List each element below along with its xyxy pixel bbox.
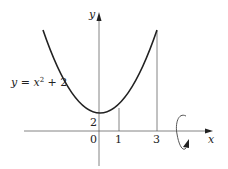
diagram-canvas: y x 0 1 3 2 y = x2 + 2 [0,0,228,169]
rotation-arrow-icon [176,115,189,149]
y-axis-label: y [88,8,96,21]
tick-label-1: 1 [115,133,122,146]
equation-rhs: + 2 [44,76,67,89]
tick-label-3: 3 [153,133,160,146]
x-axis-label: x [208,133,215,146]
diagram-svg: y x 0 1 3 2 y = x2 + 2 [0,0,228,169]
parabola-curve [43,30,157,113]
equation-lhs: y = x [10,76,40,89]
y-intercept-label: 2 [90,116,97,129]
y-axis-arrow-icon [97,12,102,21]
origin-label: 0 [90,133,97,146]
equation-label: y = x2 + 2 [10,76,67,89]
